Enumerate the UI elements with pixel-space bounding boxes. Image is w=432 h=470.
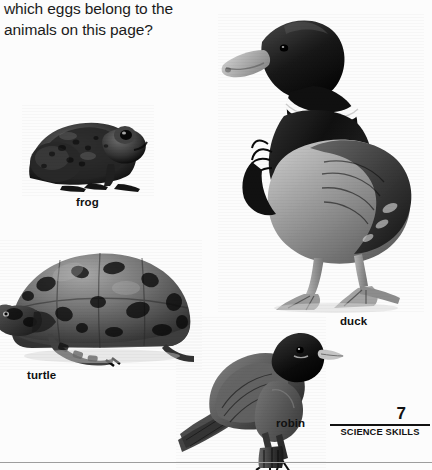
robin-label: robin — [276, 417, 305, 429]
question-text: How can you tell which eggs belong to th… — [4, 0, 254, 40]
section-label: SCIENCE SKILLS — [330, 427, 430, 437]
question-line-1: which eggs belong to the — [4, 0, 254, 19]
page-bottom-divider — [0, 462, 432, 464]
question-line-2: animals on this page? — [4, 19, 254, 40]
turtle-label: turtle — [27, 369, 56, 381]
frog-label: frog — [76, 196, 99, 208]
footer: 7 SCIENCE SKILLS — [330, 404, 430, 437]
robin-photo — [176, 316, 326, 468]
turtle-photo — [0, 238, 202, 370]
duck-label: duck — [340, 315, 367, 327]
frog-photo — [22, 104, 154, 196]
footer-divider — [330, 424, 430, 426]
worksheet-page: How can you tell which eggs belong to th… — [0, 0, 432, 470]
page-number: 7 — [330, 404, 430, 423]
duck-photo — [218, 12, 424, 312]
